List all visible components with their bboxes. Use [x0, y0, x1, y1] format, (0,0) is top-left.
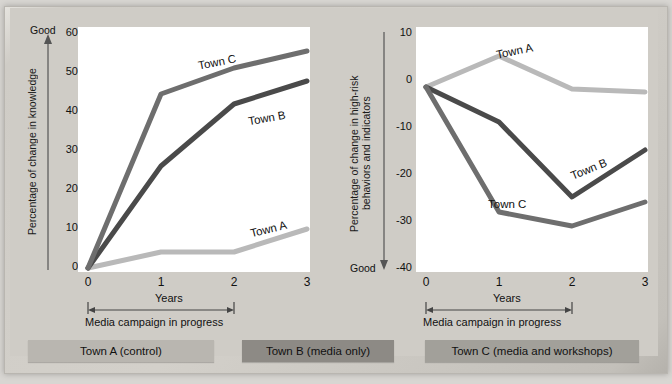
campaign-label-right: Media campaign in progress [423, 316, 561, 328]
ytick-right-minus20: -20 [388, 167, 412, 179]
good-direction-arrow-up [42, 32, 54, 272]
ytick-right-10: 10 [388, 26, 412, 38]
series-line-town-c [88, 51, 307, 268]
xtick-right-0: 0 [418, 275, 434, 289]
ytick-right-minus30: -30 [388, 214, 412, 226]
ytick-right-0: 0 [388, 73, 412, 85]
ytick-left-0: 0 [54, 260, 78, 272]
ytick-left-30: 30 [54, 143, 78, 155]
campaign-span-right [416, 302, 576, 316]
series-label-town-c-right: Town C [488, 198, 526, 210]
xtick-left-2: 2 [226, 275, 242, 289]
ytick-left-10: 10 [54, 221, 78, 233]
legend-item-town-a[interactable]: Town A (control) [28, 340, 214, 362]
ytick-right-minus10: -10 [388, 120, 412, 132]
ytick-left-40: 40 [54, 104, 78, 116]
ytick-left-50: 50 [54, 65, 78, 77]
legend-item-town-c[interactable]: Town C (media and workshops) [425, 340, 639, 362]
good-label-right: Good [350, 262, 376, 274]
legend-label-town-c: Town C (media and workshops) [451, 345, 612, 357]
ytick-right-minus40: -40 [388, 261, 412, 273]
series-line-town-a [88, 229, 307, 268]
plot-area-high-risk [416, 27, 648, 272]
legend-label-town-b: Town B (media only) [266, 345, 370, 357]
xtick-left-1: 1 [153, 275, 169, 289]
y-axis-label-high-risk: Percentage of change in high-risk behavi… [348, 46, 376, 261]
plot-area-knowledge [78, 27, 310, 272]
ytick-left-20: 20 [54, 182, 78, 194]
xtick-left-3: 3 [299, 275, 315, 289]
legend-item-town-b[interactable]: Town B (media only) [242, 340, 394, 362]
xtick-right-3: 3 [637, 275, 653, 289]
legend-label-town-a: Town A (control) [80, 345, 162, 357]
xtick-right-2: 2 [564, 275, 580, 289]
y-axis-label-knowledge: Percentage of change in knowledge [26, 52, 40, 252]
campaign-label-left: Media campaign in progress [85, 316, 223, 328]
series-line-town-a-right [426, 56, 645, 92]
xtick-left-0: 0 [80, 275, 96, 289]
good-direction-arrow-down [378, 30, 390, 272]
lines-high-risk [416, 27, 648, 272]
campaign-span-left [78, 302, 238, 316]
xtick-right-1: 1 [491, 275, 507, 289]
ytick-left-60: 60 [54, 26, 78, 38]
good-label-left: Good [30, 24, 56, 36]
lines-knowledge [78, 27, 310, 272]
figure-root: Percentage of change in knowledge Good 6… [0, 0, 672, 384]
